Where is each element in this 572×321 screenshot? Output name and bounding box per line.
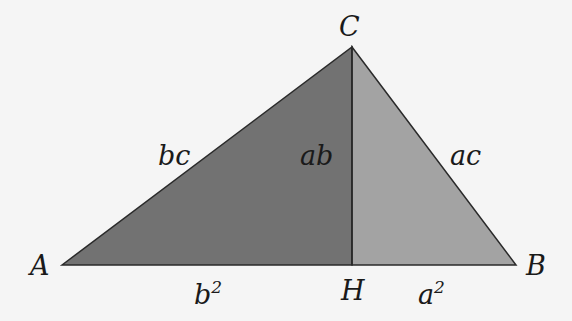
segment-AH-base: b [194, 279, 211, 310]
diagram-canvas: C A B H bc ab ac b2 a2 [0, 0, 572, 321]
edge-label-CH: ab [300, 140, 333, 171]
triangle-diagram: C A B H bc ab ac b2 a2 [0, 0, 572, 321]
segment-HB-base: a [418, 279, 434, 310]
vertex-label-A: A [27, 250, 50, 281]
segment-label-HB: a2 [418, 277, 445, 310]
vertex-label-C: C [339, 11, 360, 42]
edge-label-AC: bc [158, 140, 190, 171]
segment-HB-exponent: 2 [433, 277, 445, 297]
vertex-label-B: B [525, 250, 546, 281]
edge-label-CB: ac [450, 140, 481, 171]
segment-AH-exponent: 2 [210, 277, 222, 297]
vertex-label-H: H [340, 275, 365, 306]
right-triangle-CHB [352, 47, 516, 265]
segment-label-AH: b2 [194, 277, 222, 310]
